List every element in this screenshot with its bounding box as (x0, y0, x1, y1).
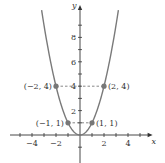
data-point (53, 84, 58, 89)
y-axis-label: y (71, 1, 77, 10)
data-point (65, 120, 70, 125)
data-point-label: (2, 4) (108, 82, 130, 91)
data-point-label: (−2, 4) (24, 82, 52, 91)
x-tick-label: 2 (101, 139, 106, 148)
y-tick-label: 2 (71, 107, 76, 116)
data-point-label: (1, 1) (96, 119, 118, 128)
x-tick-label: −2 (50, 139, 62, 148)
x-tick-label: −4 (26, 139, 38, 148)
data-point (89, 120, 94, 125)
y-axis-arrow-icon (78, 5, 82, 10)
y-tick-label: 4 (71, 82, 76, 91)
y-tick-label: 6 (71, 58, 76, 67)
x-tick-label: 4 (125, 139, 130, 148)
data-point (101, 84, 106, 89)
y-tick-label: 8 (71, 33, 76, 42)
parabola-chart: −4−2242468xy(−2, 4)(2, 4)(−1, 1)(1, 1) (0, 0, 165, 163)
data-point-label: (−1, 1) (36, 119, 64, 128)
x-axis-label: x (152, 137, 157, 146)
